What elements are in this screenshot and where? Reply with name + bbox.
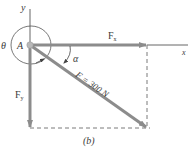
- origin-point: [27, 42, 33, 48]
- fx-label: Fx: [108, 30, 117, 42]
- fy-label: Fy: [15, 89, 24, 101]
- alpha-label: α: [73, 53, 79, 64]
- theta-label: θ: [1, 40, 6, 51]
- x-axis-label: x: [181, 48, 186, 57]
- f-magnitude-label: F = 300 N: [73, 69, 111, 100]
- figure-caption: (b): [83, 135, 95, 147]
- force-components-diagram: y x θ Fx Fy F = 300 N α A (b): [0, 0, 196, 149]
- y-axis-label: y: [20, 2, 26, 13]
- alpha-angle-arc: [64, 46, 70, 63]
- origin-label: A: [16, 40, 24, 51]
